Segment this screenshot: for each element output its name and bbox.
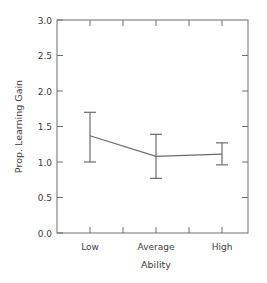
x-axis-title: Ability	[141, 259, 171, 270]
y-tick-label-4: 2.0	[38, 87, 53, 97]
y-tick-label-6: 3.0	[38, 16, 53, 26]
x-tick-label-low: Low	[81, 242, 99, 252]
y-axis-title: Prop. Learning Gain	[13, 80, 24, 173]
y-tick-label-2: 1.0	[38, 158, 53, 168]
y-tick-label-3: 1.5	[38, 122, 52, 132]
x-tick-label-high: High	[212, 242, 233, 252]
x-tick-label-average: Average	[138, 242, 175, 252]
chart-figure: 0.0 0.5 1.0 1.5 2.0 2.5 3.0 Low Average	[0, 0, 267, 283]
line-chart-with-error-bars: 0.0 0.5 1.0 1.5 2.0 2.5 3.0 Low Average	[0, 0, 267, 283]
y-tick-label-5: 2.5	[38, 51, 52, 61]
y-tick-label-1: 0.5	[38, 193, 52, 203]
y-tick-label-0: 0.0	[38, 229, 53, 239]
chart-background	[0, 0, 267, 283]
